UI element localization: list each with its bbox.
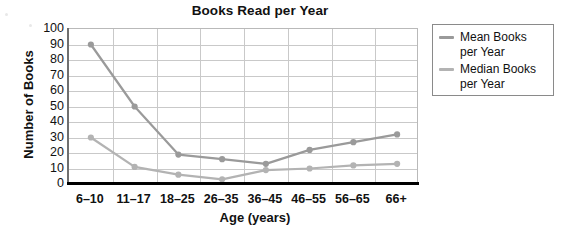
- data-series-layer: [69, 29, 419, 184]
- x-axis-tick-label: 11–17: [117, 192, 151, 206]
- chart-legend: Mean Books per YearMedian Books per Year: [432, 24, 554, 96]
- y-axis-tick-label: 0: [8, 177, 64, 190]
- x-axis-tick-label: 18–25: [160, 192, 195, 206]
- y-axis-tick-label: 80: [8, 53, 64, 66]
- y-axis-tick-label: 10: [8, 162, 64, 175]
- legend-color-swatch-icon: [439, 36, 454, 39]
- data-point: [175, 151, 181, 157]
- x-axis-line: [67, 182, 419, 185]
- x-axis-tick-label: 66+: [386, 192, 407, 206]
- data-point: [175, 172, 181, 178]
- plot-area: [68, 28, 418, 183]
- data-point: [350, 139, 356, 145]
- x-axis-tick-labels: 6–1011–1718–2526–3536–4546–5556–6566+: [68, 192, 418, 210]
- y-axis-tick-label: 50: [8, 100, 64, 113]
- y-axis-tick-label: 90: [8, 38, 64, 51]
- data-point: [219, 156, 225, 162]
- x-axis-title: Age (years): [180, 210, 330, 225]
- legend-color-swatch-icon: [439, 68, 454, 71]
- x-axis-tick-label: 36–45: [247, 192, 282, 206]
- x-axis-tick-label: 56–65: [335, 192, 370, 206]
- y-axis-tick-labels: 1009080706050403020100: [4, 0, 64, 238]
- series-line: [91, 45, 397, 164]
- y-axis-tick-label: 60: [8, 84, 64, 97]
- data-point: [132, 164, 138, 170]
- data-point: [132, 103, 138, 109]
- x-axis-tick-label: 26–35: [204, 192, 239, 206]
- y-axis-line: [67, 28, 69, 183]
- legend-item-label: Mean Books per Year: [460, 30, 547, 60]
- x-axis-tick-label: 6–10: [76, 192, 104, 206]
- data-point: [394, 131, 400, 137]
- y-axis-tick-label: 30: [8, 131, 64, 144]
- data-point: [350, 162, 356, 168]
- y-axis-tick-label: 70: [8, 69, 64, 82]
- data-point: [263, 167, 269, 173]
- legend-item[interactable]: Median Books per Year: [439, 62, 547, 92]
- y-axis-tick-label: 40: [8, 115, 64, 128]
- data-point: [307, 165, 313, 171]
- x-axis-tick-label: 46–55: [291, 192, 326, 206]
- y-axis-tick-label: 100: [8, 22, 64, 35]
- legend-item[interactable]: Mean Books per Year: [439, 30, 547, 60]
- chart-title: Books Read per Year: [150, 3, 370, 18]
- data-point: [88, 41, 94, 47]
- data-point: [394, 161, 400, 167]
- data-point: [307, 147, 313, 153]
- data-point: [263, 161, 269, 167]
- legend-item-label: Median Books per Year: [460, 62, 547, 92]
- chart-container: Books Read per Year Number of Books Age …: [0, 0, 561, 238]
- data-point: [88, 134, 94, 140]
- y-axis-tick-label: 20: [8, 146, 64, 159]
